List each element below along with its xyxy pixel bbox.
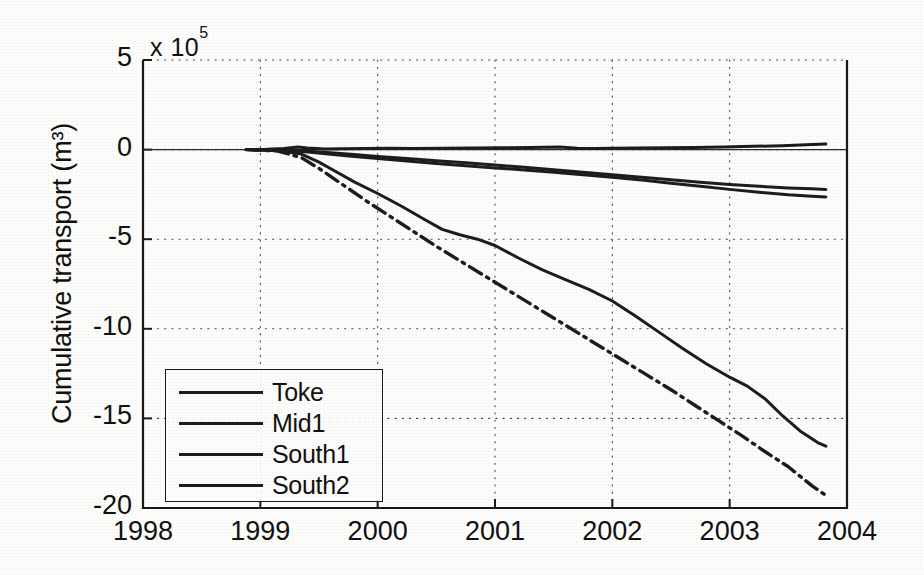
series-toke xyxy=(246,144,826,150)
legend-line-swatch xyxy=(179,484,263,487)
legend-item-south2[interactable]: South2 xyxy=(166,470,382,501)
legend-item-mid1[interactable]: Mid1 xyxy=(166,408,382,439)
legend-item-label: South2 xyxy=(272,473,349,498)
legend: TokeMid1South1South2 xyxy=(165,369,383,502)
legend-item-label: South1 xyxy=(272,442,349,467)
legend-item-toke[interactable]: Toke xyxy=(166,377,382,408)
figure-canvas: Cumulative transport (m³) x 105 50-5-10-… xyxy=(0,0,924,575)
legend-line-swatch xyxy=(179,453,263,456)
plot-area xyxy=(0,0,924,575)
series-south1 xyxy=(246,150,826,197)
legend-item-label: Mid1 xyxy=(272,411,325,436)
legend-item-south1[interactable]: South1 xyxy=(166,439,382,470)
legend-line-swatch xyxy=(179,422,263,425)
legend-item-label: Toke xyxy=(272,380,324,405)
legend-line-swatch xyxy=(179,391,263,394)
